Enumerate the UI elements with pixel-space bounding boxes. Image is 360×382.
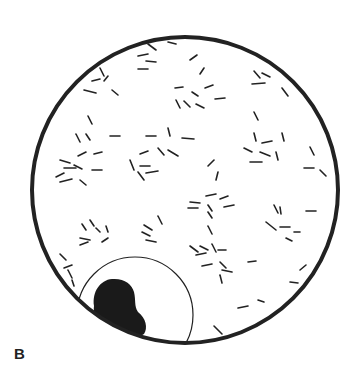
bacillus-rod — [220, 196, 228, 199]
bacillus-rod — [60, 160, 70, 163]
bacillus-rod — [146, 171, 158, 173]
bacillus-rod — [96, 228, 100, 232]
bacillus-rod — [276, 152, 278, 160]
bacillus-rod — [100, 68, 104, 76]
bacillus-rod — [252, 83, 265, 84]
bacillus-rod — [78, 152, 86, 156]
bacillus-rod — [138, 54, 148, 56]
bacillus-rod — [184, 101, 190, 107]
bacillus-rod — [84, 90, 96, 93]
bacillus-rod — [248, 261, 256, 262]
bacillus-rod — [82, 224, 86, 230]
bacillus-rod — [274, 205, 278, 213]
bacillus-rod — [146, 240, 156, 242]
bacillus-rod — [102, 238, 108, 242]
bacillus-rod — [168, 128, 170, 136]
bacillus-rod — [282, 88, 288, 96]
bacillus-rod — [72, 280, 74, 286]
bacillus-rod — [190, 246, 198, 252]
bacillus-rod — [262, 73, 270, 77]
bacillus-rod — [220, 262, 226, 268]
bacillus-rod — [64, 265, 72, 268]
bacillus-rod — [244, 148, 252, 152]
bacillus-rod — [175, 87, 183, 88]
bacillus-rod — [266, 222, 276, 230]
bacillus-rod — [60, 254, 66, 260]
bacillus-rod — [80, 180, 86, 185]
bacillus-rod — [214, 326, 222, 334]
bacillus-rod — [190, 202, 200, 203]
bacillus-rod — [176, 100, 180, 108]
bacillus-rod — [92, 79, 100, 81]
bacillus-rod — [216, 172, 218, 180]
bacillus-rod — [60, 179, 72, 182]
bacillus-rod — [192, 92, 198, 96]
bacillus-rod — [138, 172, 144, 180]
bacillus-rod — [200, 68, 204, 74]
bacillus-rod — [202, 264, 212, 266]
bacillus-rod — [190, 55, 197, 60]
bacillus-rod — [104, 76, 108, 81]
bacillus-rod — [80, 238, 90, 240]
bacillus-rod — [196, 253, 206, 255]
bacillus-rod — [212, 244, 216, 252]
bacillus-rod — [88, 116, 92, 124]
bacillus-rod — [68, 270, 72, 278]
bacillus-rod — [148, 44, 156, 50]
bacillus-rod — [196, 104, 204, 108]
bacillus-rod — [208, 205, 212, 211]
bacillus-rod — [208, 160, 214, 166]
bacillus-rod — [320, 170, 326, 176]
bacillus-rod — [262, 141, 272, 143]
bacillus-rod — [205, 85, 213, 88]
bacillus-rod — [76, 134, 80, 142]
bacillus-rod — [290, 282, 298, 283]
bacillus-rod — [112, 90, 118, 95]
bacillus-rod — [280, 207, 281, 214]
bacillus-rod — [282, 133, 284, 141]
bacillus-rod — [208, 226, 212, 234]
bacillus-rod — [168, 42, 176, 44]
bacillus-rod — [130, 160, 134, 170]
bacillus-rod — [158, 216, 162, 224]
bacillus-rod — [254, 112, 258, 120]
bacillus-rod — [158, 148, 164, 155]
bacillus-rod — [254, 71, 260, 78]
bacillus-rod — [200, 246, 208, 250]
bacillus-rod — [208, 212, 212, 218]
bacillus-rod — [222, 270, 232, 272]
bacillus-rod — [215, 98, 225, 99]
microscope-field-figure — [0, 0, 360, 382]
bacillus-rod — [224, 205, 234, 207]
bacillus-rod — [142, 232, 150, 236]
bacillus-rod — [310, 147, 314, 155]
panel-label: B — [14, 345, 25, 362]
bacillus-rod — [300, 265, 306, 270]
bacillus-rod — [182, 138, 194, 139]
bacillus-rod — [220, 275, 222, 283]
bacillus-rod — [260, 152, 270, 156]
bacillus-rod — [206, 194, 216, 196]
bacillus-rod — [56, 173, 64, 177]
bacillus-rod — [286, 238, 292, 241]
bacillus-rod — [168, 150, 178, 156]
bacillus-rod — [94, 152, 102, 154]
bacillus-rod — [144, 225, 152, 230]
bacillus-rod — [90, 220, 94, 226]
bacillus-rod — [146, 61, 156, 62]
bacillus-rod — [106, 226, 108, 232]
bacillus-rod — [258, 300, 264, 302]
bacillus-rod — [140, 151, 148, 154]
bacillus-rod — [80, 242, 88, 245]
bacillus-rod — [254, 133, 256, 141]
bacillus-rod — [238, 306, 248, 308]
bacillus-rod — [86, 134, 90, 140]
